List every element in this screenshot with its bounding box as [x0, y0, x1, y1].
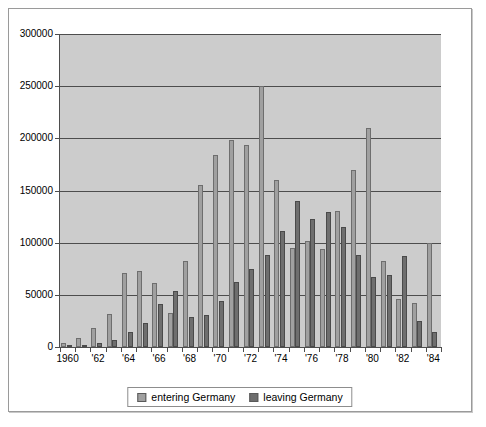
bar-group	[60, 34, 75, 347]
bar-group	[182, 34, 197, 347]
bar-entering	[198, 185, 203, 347]
y-axis-label: 200000	[20, 133, 53, 143]
x-axis-label: '76	[305, 354, 318, 364]
legend-item-entering: entering Germany	[137, 391, 235, 403]
bar-entering	[213, 155, 218, 347]
bar-leaving	[280, 231, 285, 347]
x-axis-tick	[167, 347, 168, 352]
chart-legend: entering Germany leaving Germany	[127, 387, 352, 407]
x-axis-label: '64	[122, 354, 135, 364]
bar-entering	[122, 273, 127, 347]
bar-group	[334, 34, 349, 347]
legend-label-entering: entering Germany	[151, 391, 235, 403]
x-axis-tick	[228, 347, 229, 352]
bar-entering	[427, 243, 432, 347]
bar-leaving	[189, 317, 194, 347]
x-axis-label: '70	[213, 354, 226, 364]
bar-group	[395, 34, 410, 347]
bar-group	[228, 34, 243, 347]
bar-leaving	[326, 212, 331, 347]
x-axis-tick	[121, 347, 122, 352]
bar-group	[350, 34, 365, 347]
bar-group	[365, 34, 380, 347]
bar-entering	[290, 248, 295, 347]
bar-entering	[76, 338, 81, 347]
bar-group	[167, 34, 182, 347]
y-axis-label: 150000	[20, 186, 53, 196]
bar-group	[136, 34, 151, 347]
bar-entering	[305, 241, 310, 347]
bar-leaving	[356, 255, 361, 347]
x-axis-tick	[212, 347, 213, 352]
bar-entering	[107, 314, 112, 347]
x-axis-tick	[319, 347, 320, 352]
bar-leaving	[158, 304, 163, 347]
bar-entering	[412, 303, 417, 347]
y-axis-label: 250000	[20, 81, 53, 91]
x-axis-label: '74	[274, 354, 287, 364]
bar-entering	[259, 86, 264, 347]
bar-leaving	[310, 219, 315, 347]
bar-group	[304, 34, 319, 347]
x-axis-tick	[426, 347, 427, 352]
x-axis-label: '84	[427, 354, 440, 364]
x-axis-label: '62	[92, 354, 105, 364]
bar-leaving	[387, 275, 392, 347]
x-axis-tick	[90, 347, 91, 352]
bar-group	[243, 34, 258, 347]
bar-entering	[244, 145, 249, 347]
bar-entering	[366, 128, 371, 347]
x-axis-tick	[365, 347, 366, 352]
x-axis-tick	[136, 347, 137, 352]
bar-entering	[168, 313, 173, 347]
x-axis-tick	[273, 347, 274, 352]
y-axis-label: 50000	[25, 290, 53, 300]
bar-group	[426, 34, 441, 347]
x-axis-tick	[411, 347, 412, 352]
legend-item-leaving: leaving Germany	[249, 391, 342, 403]
bar-leaving	[112, 340, 117, 347]
bar-leaving	[295, 201, 300, 347]
x-axis-tick	[289, 347, 290, 352]
x-axis-tick	[75, 347, 76, 352]
bar-group	[319, 34, 334, 347]
bar-leaving	[249, 269, 254, 347]
bar-group	[273, 34, 288, 347]
x-axis-tick	[380, 347, 381, 352]
bar-leaving	[432, 332, 437, 347]
plot-area: 050000100000150000200000250000300000 196…	[59, 34, 441, 348]
bar-entering	[274, 180, 279, 347]
chart-frame: 050000100000150000200000250000300000 196…	[8, 8, 472, 412]
bar-entering	[137, 271, 142, 347]
x-axis-tick	[243, 347, 244, 352]
y-axis-label: 300000	[20, 29, 53, 39]
bar-entering	[61, 343, 66, 347]
x-axis-tick	[304, 347, 305, 352]
bar-group	[258, 34, 273, 347]
bar-group	[197, 34, 212, 347]
bar-leaving	[402, 256, 407, 347]
bar-leaving	[265, 255, 270, 347]
bar-leaving	[219, 301, 224, 347]
bar-entering	[381, 261, 386, 347]
bar-entering	[91, 328, 96, 347]
bar-leaving	[143, 323, 148, 347]
bar-entering	[183, 261, 188, 347]
bar-group	[380, 34, 395, 347]
x-axis-tick	[106, 347, 107, 352]
bar-leaving	[341, 227, 346, 347]
bar-group	[212, 34, 227, 347]
bar-group	[106, 34, 121, 347]
x-axis-tick	[258, 347, 259, 352]
bar-series-container	[60, 34, 441, 347]
bar-leaving	[371, 277, 376, 347]
x-axis-tick	[395, 347, 396, 352]
y-axis-label: 100000	[20, 238, 53, 248]
x-axis-label: '78	[335, 354, 348, 364]
bar-entering	[396, 299, 401, 347]
bar-leaving	[417, 321, 422, 347]
bar-entering	[320, 249, 325, 347]
x-axis-tick	[334, 347, 335, 352]
legend-label-leaving: leaving Germany	[263, 391, 342, 403]
x-axis-label: '82	[396, 354, 409, 364]
